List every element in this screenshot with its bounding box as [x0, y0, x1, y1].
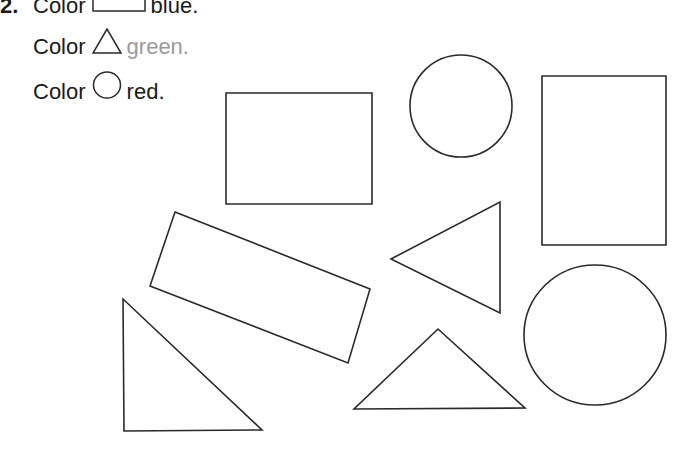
triangle-shape[interactable] — [354, 329, 525, 409]
circle-shape[interactable] — [410, 55, 512, 157]
circle-shape[interactable] — [524, 265, 666, 405]
triangle-shape[interactable] — [391, 202, 500, 313]
shapes-canvas — [0, 0, 695, 452]
right-triangle-shape[interactable] — [123, 299, 262, 431]
rectangle-shape[interactable] — [226, 93, 372, 204]
rectangle-shape[interactable] — [542, 76, 666, 245]
rotated-rectangle-shape[interactable] — [150, 212, 370, 363]
